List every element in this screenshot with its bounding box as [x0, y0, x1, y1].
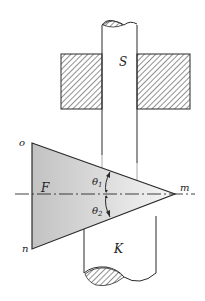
prism	[32, 143, 175, 249]
label-k: K	[113, 242, 124, 256]
label-m: m	[180, 182, 189, 193]
label-f: F	[40, 181, 50, 195]
diagram-canvas: S K F o n m θ1 θ2	[0, 0, 205, 301]
label-o: o	[19, 137, 25, 148]
label-n: n	[22, 243, 28, 254]
label-s: S	[119, 55, 127, 69]
upper-rod	[102, 21, 137, 164]
